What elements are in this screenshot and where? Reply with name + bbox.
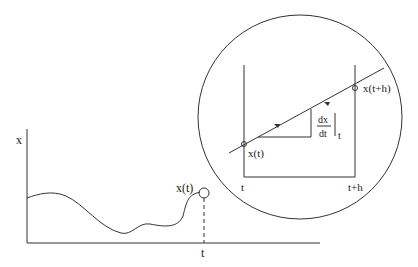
- point-marker: [199, 188, 209, 198]
- secant-line: [229, 68, 384, 153]
- magnifier-circle: [198, 15, 402, 219]
- zoom-label-t: t: [241, 181, 244, 193]
- zoom-circle: [198, 15, 402, 219]
- main-graph: [27, 129, 320, 243]
- tick-label-t: t: [201, 246, 205, 260]
- arrow-icon: [324, 102, 330, 106]
- deriv-numerator: dx: [318, 114, 328, 125]
- derivative-diagram: x x(t) t x(t) x(t+h) t t+h dx dt t: [0, 0, 418, 267]
- label-xt: x(t): [176, 181, 193, 195]
- deriv-denominator: dt: [319, 128, 327, 139]
- zoom-label-th: t+h: [348, 181, 363, 193]
- zoom-label-xth: x(t+h): [363, 82, 391, 95]
- zoom-label-xt: x(t): [248, 147, 264, 160]
- axis-label-x: x: [16, 133, 22, 147]
- deriv-eval-point: t: [338, 130, 341, 141]
- trajectory-curve: [27, 192, 200, 233]
